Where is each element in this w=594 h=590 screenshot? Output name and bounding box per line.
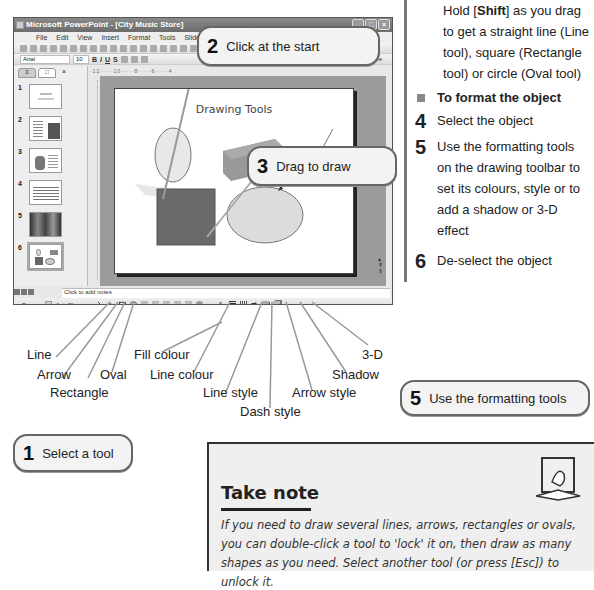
take-note-body: If you need to draw several lines, arrow… (221, 516, 593, 590)
step-6: 6 De-select the object (415, 250, 552, 272)
callout-step-5: 5 Use the formatting tools (400, 380, 590, 416)
label-arrow: Arrow (37, 367, 71, 382)
heading-underline (221, 508, 311, 511)
label-oval: Oval (100, 367, 127, 382)
label-3d: 3-D (362, 347, 383, 362)
label-line: Line (27, 347, 52, 362)
callout-step-3: 3 Drag to draw (247, 146, 397, 186)
pointing-hand-icon (534, 456, 582, 504)
label-shadow: Shadow (332, 367, 379, 382)
label-line-style: Line style (203, 385, 258, 400)
bullet-square-icon (417, 94, 425, 102)
instructions-column: Hold [Shift] as you drag to get a straig… (404, 0, 594, 282)
callout-step-1: 1 Select a tool (13, 434, 133, 472)
take-note-heading: Take note (221, 482, 319, 503)
label-fill-colour: Fill colour (134, 347, 190, 362)
step-4: 4 Select the object (415, 110, 533, 132)
label-line-colour: Line colour (150, 367, 214, 382)
step-5: 5 Use the formatting tools on the drawin… (415, 136, 594, 241)
section-heading: To format the object (415, 87, 561, 108)
shift-tip: Hold [Shift] as you drag to get a straig… (443, 0, 593, 84)
take-note-box: Take note If you need to draw several li… (207, 442, 594, 571)
label-arrow-style: Arrow style (292, 385, 356, 400)
callout-step-2: 2 Click at the start (197, 26, 380, 66)
label-dash-style: Dash style (240, 404, 301, 419)
label-rectangle: Rectangle (50, 385, 109, 400)
